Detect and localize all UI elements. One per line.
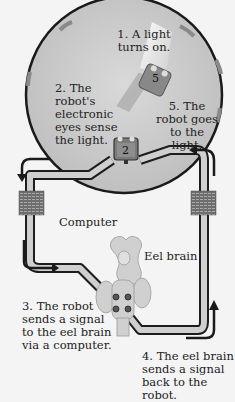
step-2-label: 2. The robot's electronic eyes sense the… [55, 82, 135, 147]
step-1-label: 1. A light turns on. [112, 28, 176, 54]
step-5-label: 5. The robot goes to the light. [156, 100, 218, 152]
step-4-label: 4. The eel brain sends a signal back to … [142, 350, 235, 402]
computer-left-icon [19, 191, 44, 215]
eel-brain-label: Eel brain [144, 250, 197, 263]
robot-end-number: 5 [152, 72, 159, 85]
robot-start-number: 2 [122, 144, 129, 157]
step-3-label: 3. The robot sends a signal to the eel b… [22, 300, 112, 352]
computer-label: Computer [59, 216, 117, 229]
computer-right-icon [191, 191, 216, 215]
